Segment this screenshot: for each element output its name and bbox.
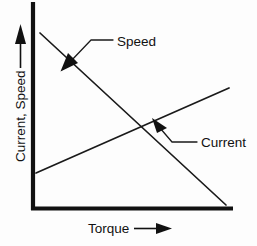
- chart-figure: Current, Speed Torque Speed Current: [0, 0, 257, 246]
- chart-canvas: Current, Speed Torque Speed Current: [0, 0, 257, 246]
- series-line-current: [36, 88, 229, 173]
- y-axis-label: Current, Speed: [13, 70, 28, 162]
- up-arrow-icon: [15, 24, 26, 44]
- annotation-current-label: Current: [201, 135, 246, 150]
- annotation-speed-leader: [70, 40, 113, 62]
- annotation-current: Current: [152, 118, 246, 150]
- x-axis-label: Torque: [88, 221, 129, 236]
- right-arrow-icon: [156, 223, 172, 234]
- annotation-speed-label: Speed: [117, 34, 156, 49]
- y-axis-arrow: [15, 24, 26, 68]
- x-axis-arrow: [134, 223, 172, 234]
- annotation-current-arrowhead: [152, 118, 167, 133]
- annotation-current-leader: [160, 128, 197, 142]
